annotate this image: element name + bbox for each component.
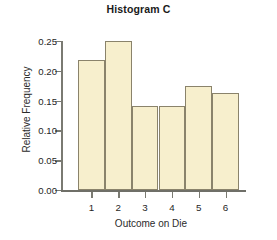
x-tick-label: 5 bbox=[196, 202, 201, 213]
x-tick-label: 3 bbox=[142, 202, 147, 213]
x-tick-mark bbox=[118, 192, 119, 198]
histogram-bar bbox=[132, 106, 159, 190]
histogram-bar bbox=[78, 60, 105, 190]
y-tick-label: 0.25 bbox=[38, 36, 57, 47]
x-tick-label: 4 bbox=[169, 202, 174, 213]
x-axis-label: Outcome on Die bbox=[56, 218, 246, 229]
x-tick-label: 6 bbox=[223, 202, 228, 213]
x-tick-label: 2 bbox=[116, 202, 121, 213]
plot-area: 0.000.050.100.150.200.25 123456 bbox=[61, 30, 246, 192]
x-tick-mark bbox=[91, 192, 92, 198]
histogram-bar bbox=[159, 106, 186, 190]
x-tick-mark bbox=[172, 192, 173, 198]
y-axis-label: Relative Frequency bbox=[21, 30, 32, 190]
chart-title: Histogram C bbox=[0, 3, 277, 15]
x-tick-label: 1 bbox=[89, 202, 94, 213]
x-axis-line bbox=[61, 190, 246, 192]
x-tick-mark bbox=[226, 192, 227, 198]
histogram-bar bbox=[212, 93, 239, 190]
histogram-bar bbox=[185, 86, 212, 190]
y-tick-label: 0.20 bbox=[38, 65, 57, 76]
x-tick-mark bbox=[145, 192, 146, 198]
y-axis-line bbox=[61, 41, 63, 191]
y-tick-label: 0.10 bbox=[38, 125, 57, 136]
histogram-figure: Histogram C Relative Frequency 0.000.050… bbox=[0, 0, 277, 240]
x-tick-mark bbox=[199, 192, 200, 198]
y-tick-label: 0.00 bbox=[38, 185, 57, 196]
y-tick-label: 0.15 bbox=[38, 95, 57, 106]
y-tick-label: 0.05 bbox=[38, 155, 57, 166]
histogram-bar bbox=[105, 41, 132, 190]
